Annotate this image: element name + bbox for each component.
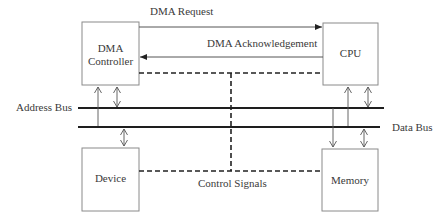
cpu-label: CPU: [323, 47, 378, 60]
device-label: Device: [82, 172, 139, 185]
dma-ack-label: DMA Acknowledgement: [207, 37, 317, 50]
memory-label: Memory: [322, 174, 378, 187]
control-signals-label: Control Signals: [198, 177, 267, 190]
dma-controller-label: DMA Controller: [82, 42, 139, 68]
dma-controller-label-line2: Controller: [82, 55, 139, 68]
dma-controller-label-line1: DMA: [82, 42, 139, 55]
data-bus-label: Data Bus: [392, 121, 433, 134]
address-bus-label: Address Bus: [16, 101, 72, 114]
dma-request-label: DMA Request: [150, 5, 213, 18]
